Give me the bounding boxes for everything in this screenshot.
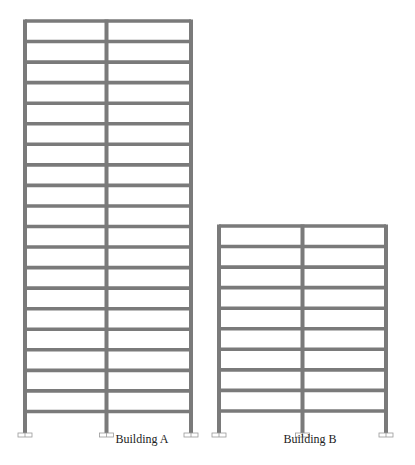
building-a-frame (18, 20, 198, 438)
building-a-label: Building A (82, 432, 202, 447)
frame-diagram (0, 0, 415, 465)
building-b-frame (212, 225, 393, 438)
building-b-label: Building B (250, 432, 370, 447)
